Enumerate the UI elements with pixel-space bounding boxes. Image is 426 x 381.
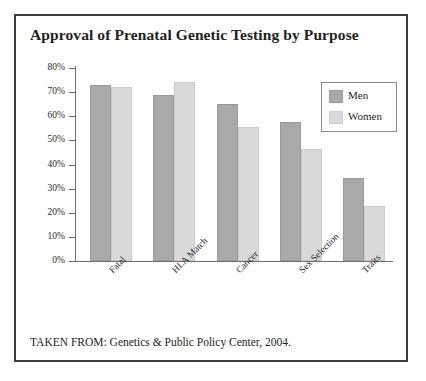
y-tick-label: 40%	[16, 159, 65, 169]
y-tick-label: 80%	[16, 62, 65, 72]
y-tick-mark	[69, 68, 76, 69]
legend-label-women: Women	[348, 110, 382, 122]
y-tick-label: 10%	[16, 231, 65, 241]
bar-men-cancer	[217, 104, 238, 261]
y-tick-label: 60%	[16, 110, 65, 120]
bar-men-sex-selection	[280, 122, 301, 261]
bar-women-sex-selection	[301, 149, 322, 261]
legend-label-men: Men	[348, 89, 368, 101]
y-tick-mark	[69, 140, 76, 141]
legend-swatch-women-icon	[329, 111, 343, 124]
y-tick-label: 30%	[16, 183, 65, 193]
y-tick-mark	[69, 165, 76, 166]
bar-women-cancer	[238, 127, 259, 261]
y-tick-mark	[69, 189, 76, 190]
legend-swatch-men-icon	[329, 90, 343, 103]
y-tick-label: 0%	[16, 255, 65, 265]
y-tick-mark	[69, 237, 76, 238]
bar-men-traits	[343, 178, 364, 261]
y-tick-mark	[69, 213, 76, 214]
y-tick-label: 70%	[16, 86, 65, 96]
y-tick-mark	[69, 92, 76, 93]
y-tick-label: 50%	[16, 134, 65, 144]
y-tick-label: 20%	[16, 207, 65, 217]
plot-area: 80%70%60%50%40%30%20%10%0% FatalHLA Matc…	[16, 16, 406, 360]
bar-women-fatal	[111, 87, 132, 261]
source-caption: TAKEN FROM: Genetics & Public Policy Cen…	[30, 336, 291, 348]
bar-women-hla-match	[174, 82, 195, 261]
chart-legend: Men Women	[321, 82, 397, 132]
y-tick-mark	[69, 116, 76, 117]
chart-frame: Approval of Prenatal Genetic Testing by …	[14, 14, 408, 362]
bar-men-fatal	[90, 85, 111, 261]
y-tick-mark	[69, 261, 76, 262]
bar-men-hla-match	[153, 95, 174, 261]
